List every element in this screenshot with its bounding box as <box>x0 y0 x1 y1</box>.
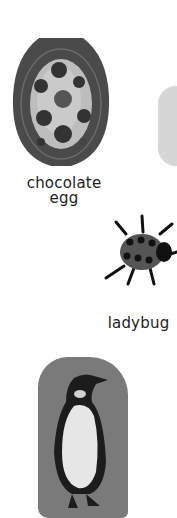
penguin-image <box>50 372 112 512</box>
ladybug-label: ladybug <box>100 316 177 331</box>
ladybug-image <box>100 210 177 290</box>
chocolate-egg-label: chocolate egg <box>14 176 114 206</box>
partial-sticker-shape <box>158 86 177 166</box>
chocolate-egg-image <box>11 36 111 168</box>
label-line: egg <box>14 191 114 206</box>
